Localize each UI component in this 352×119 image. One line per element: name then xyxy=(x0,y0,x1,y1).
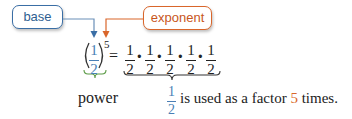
factor-2: 1 2 xyxy=(145,43,155,77)
factor-numerator: 1 xyxy=(145,43,155,58)
base-denominator: 2 xyxy=(89,62,99,77)
multiply-dot: · xyxy=(156,45,163,68)
factor-3: 1 2 xyxy=(165,43,175,77)
caption-numerator: 1 xyxy=(167,85,176,99)
caption-fraction: 1 2 xyxy=(167,85,176,117)
factor-denominator: 2 xyxy=(165,62,175,77)
base-numerator: 1 xyxy=(89,43,99,58)
multiply-dot: · xyxy=(136,45,143,68)
factor-denominator: 2 xyxy=(125,62,135,77)
right-paren-icon xyxy=(99,43,103,68)
factor-numerator: 1 xyxy=(206,43,216,58)
factor-numerator: 1 xyxy=(125,43,135,58)
equals-sign: = xyxy=(109,47,118,65)
caption-denominator: 2 xyxy=(167,103,176,117)
caption-text-after: times. xyxy=(302,90,338,106)
power-label: power xyxy=(78,89,118,107)
caption-text: is used as a factor 5 times. xyxy=(180,90,338,107)
exponent-arrow-icon xyxy=(103,19,144,38)
base-arrow-icon xyxy=(63,19,98,38)
factor-1: 1 2 xyxy=(125,43,135,77)
base-fraction: 1 2 xyxy=(89,43,99,77)
factor-5: 1 2 xyxy=(206,43,216,77)
factor-numerator: 1 xyxy=(186,43,196,58)
factor-denominator: 2 xyxy=(206,62,216,77)
factor-denominator: 2 xyxy=(186,62,196,77)
caption-count: 5 xyxy=(290,90,298,106)
factor-4: 1 2 xyxy=(186,43,196,77)
caption-text-before: is used as a factor xyxy=(180,90,287,106)
multiply-dot: · xyxy=(177,45,184,68)
multiply-dot: · xyxy=(197,45,204,68)
factor-numerator: 1 xyxy=(165,43,175,58)
factor-denominator: 2 xyxy=(145,62,155,77)
